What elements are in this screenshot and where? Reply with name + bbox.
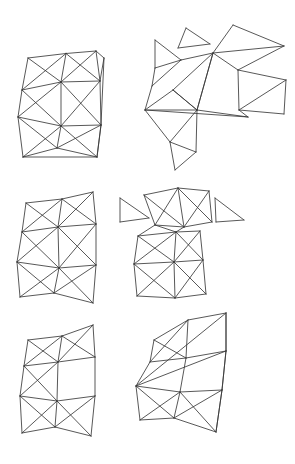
mesh-figure-canvas: [0, 0, 295, 464]
figure-root: [0, 0, 295, 464]
